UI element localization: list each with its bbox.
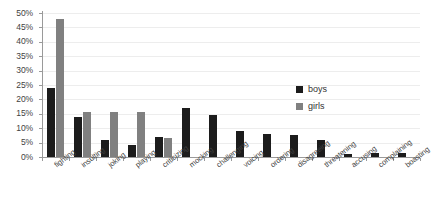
y-axis-tick-labels: 0%5%10%15%20%25%30%35%40%45%50% <box>0 0 40 214</box>
y-axis-tick-label: 10% <box>16 124 33 133</box>
x-axis-tick-mark <box>42 158 43 161</box>
legend-label-boys: boys <box>308 85 327 94</box>
y-axis-tick-mark <box>39 99 42 100</box>
y-axis-tick-label: 35% <box>16 52 33 61</box>
legend-label-girls: girls <box>308 102 325 111</box>
bar-boys-playing <box>128 145 136 157</box>
legend-item-boys: boys <box>296 82 327 96</box>
y-axis-tick-mark <box>39 56 42 57</box>
bar-girls-joking <box>110 112 118 157</box>
y-axis-tick-mark <box>39 143 42 144</box>
y-axis-tick-mark <box>39 13 42 14</box>
bar-girls-insulting <box>83 112 91 157</box>
y-axis-tick-label: 5% <box>21 138 33 147</box>
bar-boys-fighting <box>47 88 55 157</box>
y-axis-tick-mark <box>39 128 42 129</box>
y-axis-tick-mark <box>39 157 42 158</box>
bar-girls-fighting <box>56 19 64 157</box>
bar-boys-insulting <box>74 117 82 157</box>
y-axis-tick-mark <box>39 42 42 43</box>
y-axis-tick-label: 30% <box>16 66 33 75</box>
y-axis-tick-label: 0% <box>21 153 33 162</box>
y-axis-tick-mark <box>39 85 42 86</box>
y-axis-tick-label: 15% <box>16 109 33 118</box>
y-axis-tick-label: 20% <box>16 95 33 104</box>
legend-swatch-girls-icon <box>296 103 303 110</box>
y-axis-tick-label: 25% <box>16 81 33 90</box>
legend-swatch-boys-icon <box>296 86 303 93</box>
chart-legend: boys girls <box>296 82 327 116</box>
y-axis-tick-mark <box>39 71 42 72</box>
y-axis-tick-label: 40% <box>16 37 33 46</box>
y-axis-tick-label: 50% <box>16 9 33 18</box>
y-axis-tick-label: 45% <box>16 23 33 32</box>
legend-item-girls: girls <box>296 99 327 113</box>
bar-girls-playing <box>137 112 145 157</box>
y-axis-tick-mark <box>39 27 42 28</box>
y-axis-tick-mark <box>39 114 42 115</box>
plot-area <box>42 13 420 157</box>
